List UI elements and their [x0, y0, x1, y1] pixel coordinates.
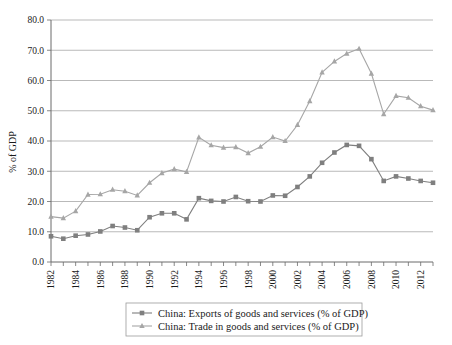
data-point-marker	[110, 224, 115, 229]
data-point-marker	[283, 193, 288, 198]
data-point-marker	[73, 233, 78, 238]
data-point-marker	[221, 199, 226, 204]
data-point-marker	[172, 166, 177, 171]
data-point-marker	[394, 174, 399, 179]
chart-figure: 0.010.020.030.040.050.060.070.080.0% of …	[0, 0, 452, 345]
data-point-marker	[295, 185, 300, 190]
legend-label: China: Trade in goods and services (% of…	[158, 321, 359, 333]
x-tick-label: 2010	[391, 270, 401, 289]
y-tick-label: 10.0	[27, 227, 44, 237]
data-point-marker	[196, 134, 201, 139]
data-point-marker	[258, 144, 263, 149]
data-point-marker	[140, 311, 145, 316]
data-point-marker	[332, 58, 337, 63]
y-tick-label: 0.0	[32, 257, 44, 267]
x-tick-label: 1998	[244, 270, 254, 289]
data-point-marker	[357, 144, 362, 149]
data-point-marker	[381, 179, 386, 184]
data-point-marker	[184, 217, 189, 222]
y-axis-title: % of GDP	[7, 131, 18, 173]
data-point-marker	[49, 234, 54, 239]
legend: China: Exports of goods and services (% …	[126, 303, 368, 336]
x-tick-label: 2002	[293, 270, 303, 289]
data-point-marker	[123, 225, 128, 230]
x-tick-label: 1982	[46, 270, 56, 289]
data-point-marker	[208, 142, 213, 147]
data-point-marker	[431, 180, 436, 185]
y-tick-label: 30.0	[27, 167, 44, 177]
series-line	[51, 49, 433, 218]
data-point-marker	[209, 199, 214, 204]
data-point-marker	[369, 70, 374, 75]
data-point-marker	[320, 160, 325, 165]
chart-canvas: 0.010.020.030.040.050.060.070.080.0% of …	[0, 0, 452, 345]
data-point-marker	[98, 229, 103, 234]
data-point-marker	[307, 98, 312, 103]
y-tick-label: 70.0	[27, 46, 44, 56]
data-point-marker	[356, 46, 361, 51]
y-tick-label: 20.0	[27, 197, 44, 207]
data-point-marker	[258, 199, 263, 204]
data-point-marker	[344, 143, 349, 148]
x-tick-label: 2004	[317, 270, 327, 289]
data-point-marker	[147, 215, 152, 220]
legend-label: China: Exports of goods and services (% …	[158, 308, 368, 320]
y-tick-label: 50.0	[27, 106, 44, 116]
data-point-marker	[406, 176, 411, 181]
series-trade	[48, 46, 435, 221]
x-tick-label: 2008	[367, 270, 377, 289]
data-point-marker	[369, 157, 374, 162]
x-tick-label: 1986	[96, 270, 106, 289]
data-point-marker	[332, 150, 337, 155]
data-point-marker	[110, 187, 115, 192]
y-tick-label: 60.0	[27, 76, 44, 86]
legend-item-exports[interactable]: China: Exports of goods and services (% …	[132, 308, 368, 320]
data-point-marker	[48, 214, 53, 219]
y-tick-label: 80.0	[27, 15, 44, 25]
x-tick-label: 1988	[120, 270, 130, 289]
y-tick-label: 40.0	[27, 136, 44, 146]
x-tick-label: 1992	[170, 270, 180, 289]
data-point-marker	[246, 199, 251, 204]
data-point-marker	[172, 211, 177, 216]
data-point-marker	[271, 193, 276, 198]
data-point-marker	[418, 103, 423, 108]
x-tick-label: 2000	[268, 270, 278, 289]
x-tick-label: 2012	[416, 270, 426, 289]
data-point-marker	[135, 228, 140, 233]
x-tick-label: 1994	[194, 270, 204, 289]
x-ticks: 1982198419861988199019921994199619982000…	[46, 262, 433, 289]
x-tick-label: 1996	[219, 270, 229, 289]
data-point-marker	[197, 196, 202, 201]
x-tick-label: 1984	[71, 270, 81, 289]
x-tick-label: 1990	[145, 270, 155, 289]
x-tick-label: 2006	[342, 270, 352, 289]
data-point-marker	[61, 236, 66, 241]
data-point-marker	[393, 93, 398, 98]
data-point-marker	[234, 195, 239, 200]
data-point-marker	[233, 144, 238, 149]
y-gridlines: 0.010.020.030.040.050.060.070.080.0	[27, 15, 433, 267]
data-point-marker	[295, 122, 300, 127]
data-point-marker	[418, 179, 423, 184]
data-point-marker	[270, 134, 275, 139]
data-point-marker	[147, 180, 152, 185]
legend-item-trade[interactable]: China: Trade in goods and services (% of…	[132, 321, 359, 333]
data-point-marker	[160, 211, 165, 216]
data-point-marker	[86, 232, 91, 237]
data-point-marker	[307, 174, 312, 179]
